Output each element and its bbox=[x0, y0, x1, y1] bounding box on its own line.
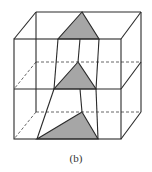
connector-center-lower bbox=[80, 89, 82, 112]
middle-triangle-section bbox=[54, 62, 96, 89]
top-right-diagonal bbox=[121, 12, 141, 39]
top-left-diagonal bbox=[14, 12, 36, 39]
connector-right-upper bbox=[96, 39, 99, 89]
left-bottom-diagonal bbox=[14, 112, 36, 139]
middle-right-diagonal bbox=[121, 62, 141, 89]
figure-label: (b) bbox=[0, 152, 152, 164]
connector-left-upper bbox=[54, 39, 58, 89]
connector-right-lower bbox=[96, 89, 98, 139]
left-middle-diagonal bbox=[14, 62, 36, 89]
connector-center-upper bbox=[78, 39, 80, 62]
bottom-right-diagonal bbox=[121, 112, 141, 139]
top-triangle-section bbox=[58, 12, 99, 39]
stacked-cubes-diagram bbox=[0, 0, 152, 172]
bottom-triangle-section bbox=[37, 112, 98, 139]
